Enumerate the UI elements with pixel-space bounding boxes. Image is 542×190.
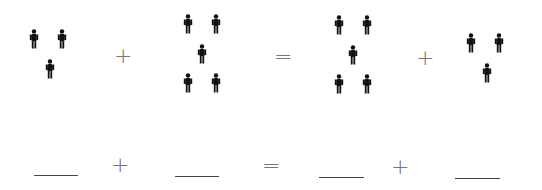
person-icon: [211, 73, 221, 93]
person-icon: [482, 63, 492, 83]
person-icon: [362, 15, 372, 35]
person-icon: [183, 14, 193, 34]
person-icon: [29, 29, 39, 49]
person-icon: [348, 45, 358, 65]
person-icon: [494, 33, 504, 53]
answer-blank-4[interactable]: [455, 178, 500, 179]
person-icon: [183, 73, 193, 93]
answer-blank-3[interactable]: [319, 177, 364, 178]
equals-sign: =: [262, 155, 280, 177]
answer-blank-1[interactable]: [34, 175, 78, 176]
equals-sign: =: [274, 46, 292, 68]
answer-blank-2[interactable]: [175, 176, 219, 177]
person-icon: [211, 14, 221, 34]
person-icon: [362, 74, 372, 94]
plus-sign: +: [114, 45, 132, 67]
person-icon: [197, 44, 207, 64]
person-icon: [334, 74, 344, 94]
person-icon: [57, 29, 67, 49]
plus-sign: +: [416, 47, 434, 69]
person-icon: [334, 15, 344, 35]
person-icon: [466, 33, 476, 53]
plus-sign: +: [111, 154, 129, 176]
person-icon: [45, 59, 55, 79]
plus-sign: +: [391, 156, 409, 178]
